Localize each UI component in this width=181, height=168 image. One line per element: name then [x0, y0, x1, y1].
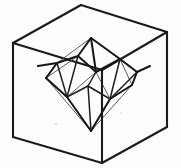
cube-edge-top-back-right-to-top-front-right — [81, 5, 167, 32]
icosa-edge-upper-d-long-right — [137, 66, 150, 72]
icosa-edge-apex-top-upper-c — [91, 38, 120, 59]
icosa-edge-lower-c-apex-bottom — [91, 99, 110, 131]
icosa-edge-upper-e-lower-e — [88, 72, 96, 86]
cube-edge-bottom-front-left-to-bottom-front-right — [102, 127, 167, 163]
cube-bottom-face-edges — [13, 127, 167, 163]
icosa-edge-lower-e-apex-bottom — [88, 86, 91, 131]
scan-speck — [120, 112, 121, 113]
cube-edge-bottom-back-left-to-bottom-front-left — [13, 137, 102, 163]
icosa-edge-apex-top-upper-b — [78, 38, 91, 56]
cube-edge-top-back-left-to-top-back-right — [13, 5, 81, 43]
figure-container: Icosahedron inscribed in a cube — [0, 0, 181, 168]
cube-top-face-edges — [13, 5, 167, 70]
scan-speck — [55, 123, 57, 125]
scan-artifacts — [55, 112, 122, 125]
icosa-edge-lower-b-apex-bottom — [67, 97, 91, 131]
icosa-edge-upper-e-upper-c — [96, 59, 120, 72]
icosahedron-in-cube-diagram — [0, 0, 181, 168]
icosahedron-back-edges — [46, 38, 137, 131]
